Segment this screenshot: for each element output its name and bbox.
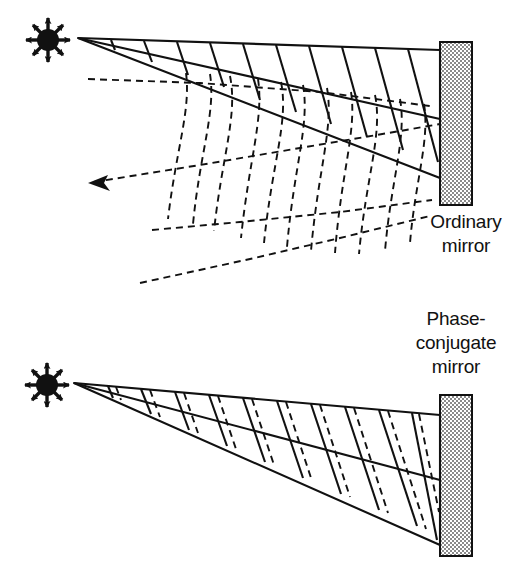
phase-conjugate-label-line-3: mirror bbox=[432, 356, 481, 377]
light-source-bottom-dot bbox=[36, 374, 58, 396]
ordinary-mirror-rect bbox=[440, 42, 472, 205]
phase-conjugate-mirror-slab bbox=[440, 395, 472, 556]
phase-conjugation-diagram: Ordinary mirror Phase- conjugate mirror bbox=[0, 0, 512, 575]
light-source-top-dot bbox=[37, 29, 59, 51]
ordinary-mirror-label-line-1: Ordinary bbox=[430, 211, 502, 232]
ordinary-mirror-label-line-2: mirror bbox=[442, 235, 491, 256]
ordinary-mirror-slab bbox=[440, 42, 472, 205]
phase-conjugate-label-line-2: conjugate bbox=[416, 332, 497, 353]
phase-conjugate-label-line-1: Phase- bbox=[426, 308, 485, 329]
phase-conjugate-mirror-rect bbox=[440, 395, 472, 556]
